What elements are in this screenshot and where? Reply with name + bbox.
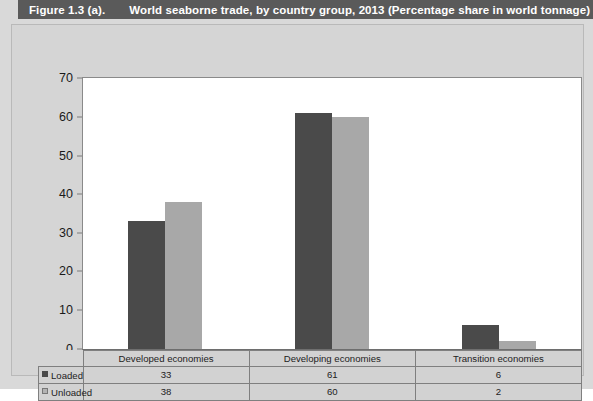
plot-wrapper: 010203040506070 [82, 77, 582, 350]
legend-item-label: Loaded [51, 370, 83, 381]
chart-card: 010203040506070 Developed economiesDevel… [11, 24, 584, 376]
legend-item-loaded[interactable]: Loaded [39, 367, 84, 384]
legend-item-unloaded[interactable]: Unloaded [39, 383, 84, 400]
bar-loaded-developed-economies [128, 221, 165, 348]
figure-number: Figure 1.3 (a). [29, 4, 105, 16]
y-axis-tick-mark [77, 271, 82, 272]
bar-unloaded-developing-economies [332, 117, 369, 349]
table-cell-value: 33 [83, 367, 249, 384]
table-row: Loaded33616 [39, 367, 582, 384]
table-column-header: Developing economies [249, 351, 415, 367]
y-axis-tick-mark [77, 78, 82, 79]
table-column-header: Transition economies [415, 351, 581, 367]
table-column-header: Developed economies [83, 351, 249, 367]
y-axis-tick-mark [77, 232, 82, 233]
table-cell-value: 6 [415, 367, 581, 384]
y-axis-tick-mark [77, 310, 82, 311]
table-row: Unloaded38602 [39, 383, 582, 400]
table-corner-cell [39, 351, 84, 367]
data-table: Developed economiesDeveloping economiesT… [38, 350, 582, 401]
light-square-icon [42, 388, 48, 394]
figure-title-bar: Figure 1.3 (a). World seaborne trade, by… [18, 0, 593, 19]
page-title: World seaborne trade, by country group, … [129, 4, 590, 16]
dark-square-icon [42, 371, 48, 377]
y-axis-tick-mark [77, 348, 82, 349]
legend-item-label: Unloaded [51, 387, 92, 398]
y-axis-tick-mark [77, 117, 82, 118]
table-cell-value: 2 [415, 383, 581, 400]
table-cell-value: 60 [249, 383, 415, 400]
bar-loaded-developing-economies [295, 113, 332, 348]
table-cell-value: 61 [249, 367, 415, 384]
table-body: Developed economiesDeveloping economiesT… [39, 351, 582, 401]
table-cell-value: 38 [83, 383, 249, 400]
y-axis-tick-mark [77, 155, 82, 156]
table-header-row: Developed economiesDeveloping economiesT… [39, 351, 582, 367]
y-axis-tick-mark [77, 194, 82, 195]
bar-unloaded-developed-economies [165, 202, 202, 349]
bar-loaded-transition-economies [462, 325, 499, 348]
bar-unloaded-transition-economies [499, 341, 536, 349]
